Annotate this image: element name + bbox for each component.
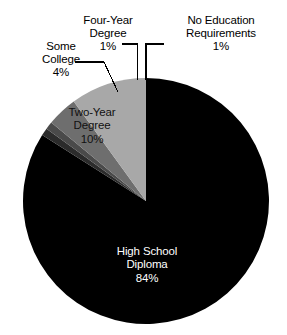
slice-label-high-school-diploma-line2: Diploma	[92, 258, 202, 271]
slice-callout-no-education-requirements-line2: Requirements	[160, 27, 282, 40]
slice-callout-some-college: Some College 4%	[28, 40, 94, 80]
slice-callout-no-education-requirements-value: 1%	[160, 40, 282, 53]
slice-callout-some-college-value: 4%	[28, 66, 94, 79]
slice-callout-some-college-line1: Some	[28, 40, 94, 53]
slice-callout-no-education-requirements: No Education Requirements 1%	[160, 14, 282, 54]
slice-label-two-year-degree-line1: Two-Year	[46, 106, 138, 119]
slice-label-high-school-diploma-line1: High School	[92, 245, 202, 258]
pie-chart: Four-Year Degree 1% No Education Require…	[0, 0, 287, 335]
slice-label-high-school-diploma-value: 84%	[92, 272, 202, 285]
slice-label-two-year-degree-line2: Degree	[46, 119, 138, 132]
slice-callout-four-year-degree-line1: Four-Year	[66, 14, 150, 27]
slice-callout-no-education-requirements-line1: No Education	[160, 14, 282, 27]
slice-label-high-school-diploma: High School Diploma 84%	[92, 245, 202, 285]
slice-callout-some-college-line2: College	[28, 53, 94, 66]
slice-callout-four-year-degree-line2: Degree	[66, 27, 150, 40]
slice-label-two-year-degree: Two-Year Degree 10%	[46, 106, 138, 146]
slice-label-two-year-degree-value: 10%	[46, 133, 138, 146]
